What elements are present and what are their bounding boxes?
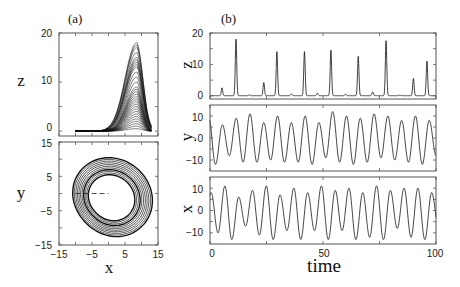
ytick-label: 10 (41, 75, 53, 86)
y-axis-label-x: x (177, 204, 196, 213)
ytick-label: −10 (186, 227, 203, 238)
xtick-label: −15 (51, 249, 68, 260)
ytick-label: 0 (197, 90, 203, 101)
ytick-label: 5 (46, 172, 52, 183)
ytick-label: 15 (41, 138, 53, 149)
panel-b-label: (b) (221, 11, 236, 26)
x-axis-label-time: time (307, 255, 341, 276)
ytick-label: 0 (46, 122, 52, 133)
y-axis-label-y: y (177, 132, 196, 141)
ytick-label: −10 (186, 155, 203, 166)
panel-b-x: 10 0 −10 x 0 50 100 time (177, 177, 444, 276)
xtick-label: 15 (152, 249, 164, 260)
panel-a-top: 20 10 0 z (17, 28, 158, 136)
panel-b-y: 10 0 −10 y (177, 105, 436, 171)
x-timeseries (210, 186, 436, 240)
xtick-label: −5 (86, 249, 98, 260)
z-timeseries (210, 39, 436, 96)
ytick-label: 0 (197, 133, 203, 144)
panel-b-z-ticks (210, 33, 436, 99)
figure: (a) (b) 20 10 0 z 15 5 −5 −15 −15 −5 5 1… (0, 0, 460, 287)
ytick-label: 20 (41, 28, 53, 39)
ytick-label: −5 (41, 206, 53, 217)
xtick-label: 5 (122, 249, 128, 260)
panel-b-x-ticks (210, 177, 436, 244)
ytick-label: 10 (192, 112, 204, 123)
panel-b-z-frame (210, 33, 436, 99)
panel-b-x-frame (210, 177, 436, 244)
y-axis-label-z: z (177, 61, 196, 69)
ytick-label: 20 (192, 28, 204, 39)
panel-b-z: 20 10 0 z (177, 28, 436, 101)
z-vs-x-curves (76, 43, 152, 131)
xtick-label: 0 (209, 248, 215, 259)
y-timeseries (210, 112, 436, 165)
panel-a-bottom: 15 5 −5 −15 −15 −5 5 15 y x (17, 138, 164, 277)
x-axis-label-x: x (105, 258, 114, 277)
panel-a-label: (a) (68, 11, 82, 26)
ytick-label: 10 (192, 184, 204, 195)
y-axis-label-z: z (17, 71, 25, 90)
ytick-label: 0 (197, 205, 203, 216)
xtick-label: 100 (427, 248, 444, 259)
y-axis-label-y: y (17, 183, 26, 202)
y-vs-x-curves (73, 158, 153, 237)
